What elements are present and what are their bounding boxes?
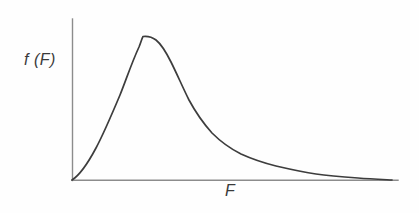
density-curve <box>72 36 392 180</box>
x-axis-label: F <box>225 182 235 200</box>
plot-area <box>0 0 419 213</box>
f-distribution-figure: f (F) F <box>0 0 419 213</box>
y-axis-label: f (F) <box>24 51 56 69</box>
